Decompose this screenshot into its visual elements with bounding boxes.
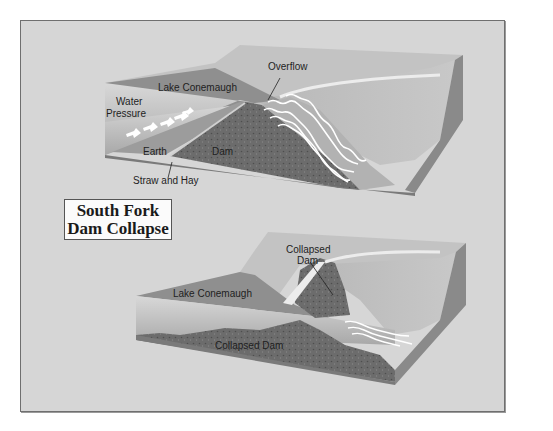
title-line-1: South Fork <box>77 202 160 220</box>
label-dam: Dam <box>212 146 233 157</box>
label-straw-and-hay: Straw and Hay <box>133 175 199 186</box>
diagram-title-box: South Fork Dam Collapse <box>64 199 172 240</box>
label-water: Water <box>116 96 142 107</box>
label-collapsed-dam-top: Dam <box>297 255 318 266</box>
label-earth: Earth <box>143 146 167 157</box>
label-collapsed: Collapsed <box>286 244 330 255</box>
title-line-2: Dam Collapse <box>67 220 169 238</box>
label-lake-conemaugh-top: Lake Conemaugh <box>158 82 237 93</box>
label-overflow: Overflow <box>268 61 307 72</box>
label-pressure: Pressure <box>106 108 146 119</box>
label-collapsed-dam-bottom: Collapsed Dam <box>215 340 283 351</box>
label-lake-conemaugh-bottom: Lake Conemaugh <box>173 288 252 299</box>
